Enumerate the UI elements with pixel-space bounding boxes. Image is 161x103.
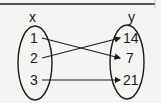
domain-label: x	[29, 9, 36, 25]
range-value-14: 14	[123, 30, 139, 46]
mapping-diagram: x y 1 2 3 14 7 21	[0, 0, 161, 103]
domain-value-3: 3	[30, 72, 38, 88]
domain-value-2: 2	[30, 50, 38, 66]
range-label: y	[128, 9, 135, 25]
domain-value-1: 1	[30, 30, 38, 46]
range-value-7: 7	[126, 50, 134, 66]
range-value-21: 21	[123, 72, 139, 88]
